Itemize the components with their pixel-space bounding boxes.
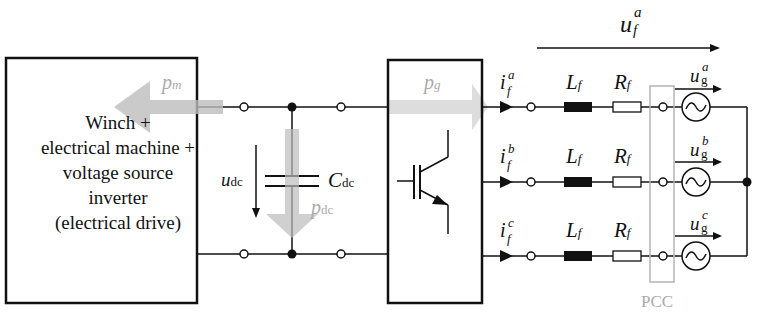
block-line: electrical machine +: [8, 135, 228, 160]
phase-a-components: [500, 85, 722, 121]
pdc-power-arrow: [266, 129, 318, 238]
star-point-dot: [743, 178, 752, 187]
inductor-c-label: Lf: [566, 220, 581, 241]
uf-arrow-head: [710, 44, 720, 52]
cdc-label: Cdc: [328, 170, 354, 191]
current-ia-label: iaf: [500, 72, 506, 92]
terminal-node: [240, 103, 248, 111]
terminal-node: [240, 250, 248, 258]
current-ib-label: ibf: [500, 146, 506, 166]
pdc-label: pdc: [311, 197, 333, 217]
phase-c-components: [500, 232, 722, 270]
pg-label: pg: [424, 72, 441, 92]
block-line: voltage source: [8, 160, 228, 185]
grid-voltage-c-label: ucg: [690, 214, 700, 233]
igbt-icon: [397, 130, 448, 234]
igbt-emitter-arrow: [432, 195, 448, 205]
resistor-b-label: Rf: [614, 146, 630, 167]
terminal-node: [337, 103, 345, 111]
phase-b-components: [500, 158, 722, 196]
grid-voltage-b-label: ubg: [690, 140, 700, 159]
block-line: inverter: [8, 185, 228, 210]
pm-label: pm: [162, 72, 181, 92]
block-line: (electrical drive): [8, 210, 228, 235]
inductor-b-label: Lf: [566, 146, 581, 167]
resistor-c-label: Rf: [614, 220, 630, 241]
current-ic-label: icf: [500, 220, 506, 240]
block-line: Winch +: [8, 110, 228, 135]
grid-voltage-a-label: uag: [690, 66, 700, 85]
inductor-a-label: Lf: [566, 72, 581, 93]
udc-label: udc: [221, 170, 243, 189]
pcc-label: PCC: [641, 293, 673, 310]
udc-arrow-head: [252, 208, 260, 218]
resistor-a-label: Rf: [614, 72, 630, 93]
electrical-drive-label: Winch + electrical machine + voltage sou…: [8, 110, 228, 235]
terminal-node: [337, 250, 345, 258]
filter-voltage-label: uaf: [620, 12, 632, 36]
